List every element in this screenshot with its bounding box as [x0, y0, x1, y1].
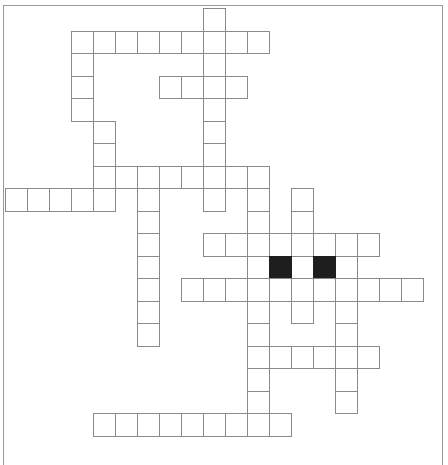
letter-cell[interactable] [225, 76, 248, 100]
letter-cell[interactable] [335, 323, 358, 347]
letter-cell[interactable] [115, 413, 138, 437]
letter-cell[interactable] [5, 188, 28, 212]
block-cell [269, 256, 292, 280]
letter-cell[interactable] [335, 278, 358, 302]
letter-cell[interactable] [203, 143, 226, 167]
letter-cell[interactable] [291, 301, 314, 325]
letter-cell[interactable] [291, 188, 314, 212]
letter-cell[interactable] [335, 233, 358, 257]
letter-cell[interactable] [115, 166, 138, 190]
letter-cell[interactable] [137, 31, 160, 55]
letter-cell[interactable] [247, 301, 270, 325]
letter-cell[interactable] [313, 233, 336, 257]
letter-cell[interactable] [203, 76, 226, 100]
letter-cell[interactable] [181, 166, 204, 190]
letter-cell[interactable] [93, 31, 116, 55]
letter-cell[interactable] [71, 188, 94, 212]
letter-cell[interactable] [159, 413, 182, 437]
letter-cell[interactable] [335, 346, 358, 370]
letter-cell[interactable] [203, 278, 226, 302]
letter-cell[interactable] [247, 166, 270, 190]
letter-cell[interactable] [137, 166, 160, 190]
letter-cell[interactable] [181, 31, 204, 55]
letter-cell[interactable] [247, 211, 270, 235]
letter-cell[interactable] [225, 278, 248, 302]
letter-cell[interactable] [71, 53, 94, 77]
letter-cell[interactable] [203, 8, 226, 32]
letter-cell[interactable] [357, 346, 380, 370]
letter-cell[interactable] [225, 166, 248, 190]
letter-cell[interactable] [71, 76, 94, 100]
letter-cell[interactable] [137, 211, 160, 235]
letter-cell[interactable] [71, 98, 94, 122]
letter-cell[interactable] [247, 233, 270, 257]
letter-cell[interactable] [203, 31, 226, 55]
letter-cell[interactable] [159, 76, 182, 100]
letter-cell[interactable] [93, 143, 116, 167]
letter-cell[interactable] [137, 413, 160, 437]
letter-cell[interactable] [401, 278, 424, 302]
letter-cell[interactable] [137, 301, 160, 325]
letter-cell[interactable] [137, 323, 160, 347]
letter-cell[interactable] [247, 256, 270, 280]
letter-cell[interactable] [247, 368, 270, 392]
letter-cell[interactable] [247, 413, 270, 437]
letter-cell[interactable] [225, 233, 248, 257]
letter-cell[interactable] [357, 278, 380, 302]
letter-cell[interactable] [159, 166, 182, 190]
letter-cell[interactable] [269, 346, 292, 370]
letter-cell[interactable] [335, 256, 358, 280]
letter-cell[interactable] [335, 368, 358, 392]
letter-cell[interactable] [379, 278, 402, 302]
letter-cell[interactable] [71, 31, 94, 55]
letter-cell[interactable] [313, 346, 336, 370]
letter-cell[interactable] [137, 278, 160, 302]
letter-cell[interactable] [93, 166, 116, 190]
letter-cell[interactable] [137, 256, 160, 280]
letter-cell[interactable] [181, 76, 204, 100]
letter-cell[interactable] [49, 188, 72, 212]
letter-cell[interactable] [247, 391, 270, 415]
letter-cell[interactable] [159, 31, 182, 55]
letter-cell[interactable] [247, 346, 270, 370]
letter-cell[interactable] [247, 31, 270, 55]
letter-cell[interactable] [27, 188, 50, 212]
letter-cell[interactable] [269, 413, 292, 437]
letter-cell[interactable] [181, 278, 204, 302]
letter-cell[interactable] [357, 233, 380, 257]
letter-cell[interactable] [291, 233, 314, 257]
letter-cell[interactable] [203, 188, 226, 212]
letter-cell[interactable] [225, 31, 248, 55]
letter-cell[interactable] [181, 413, 204, 437]
letter-cell[interactable] [291, 211, 314, 235]
letter-cell[interactable] [269, 278, 292, 302]
letter-cell[interactable] [335, 391, 358, 415]
letter-cell[interactable] [335, 301, 358, 325]
letter-cell[interactable] [203, 121, 226, 145]
letter-cell[interactable] [137, 233, 160, 257]
letter-cell[interactable] [203, 98, 226, 122]
letter-cell[interactable] [93, 413, 116, 437]
block-cell [313, 256, 336, 280]
letter-cell[interactable] [247, 323, 270, 347]
letter-cell[interactable] [291, 256, 314, 280]
letter-cell[interactable] [93, 188, 116, 212]
letter-cell[interactable] [203, 233, 226, 257]
letter-cell[interactable] [291, 278, 314, 302]
letter-cell[interactable] [247, 188, 270, 212]
letter-cell[interactable] [291, 346, 314, 370]
letter-cell[interactable] [313, 278, 336, 302]
letter-cell[interactable] [93, 121, 116, 145]
letter-cell[interactable] [247, 278, 270, 302]
letter-cell[interactable] [225, 413, 248, 437]
letter-cell[interactable] [203, 166, 226, 190]
letter-cell[interactable] [269, 233, 292, 257]
letter-cell[interactable] [115, 31, 138, 55]
letter-cell[interactable] [137, 188, 160, 212]
letter-cell[interactable] [203, 53, 226, 77]
letter-cell[interactable] [203, 413, 226, 437]
